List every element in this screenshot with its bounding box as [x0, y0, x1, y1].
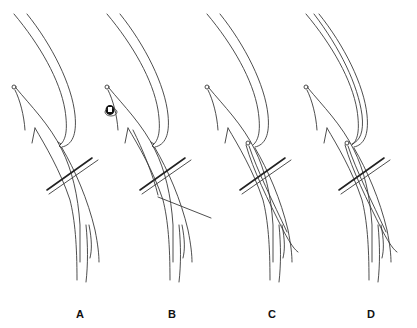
panel-a [12, 14, 99, 282]
panel-label-d: D [367, 308, 375, 320]
panel-d [304, 14, 397, 282]
panel-label-c: C [268, 308, 276, 320]
panel-label-a: A [76, 308, 84, 320]
panel-label-b: B [168, 308, 176, 320]
panel-b [105, 14, 211, 282]
panel-c [205, 14, 298, 282]
anatomical-diagram [0, 0, 417, 328]
